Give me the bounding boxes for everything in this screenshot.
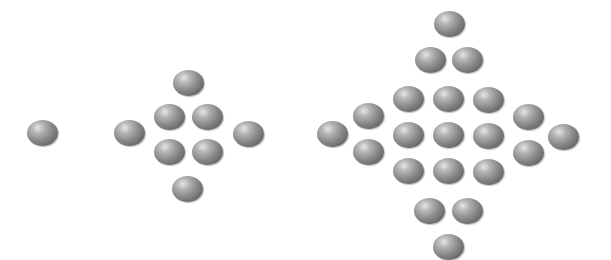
sphere <box>393 122 424 148</box>
sphere <box>513 104 544 130</box>
sphere <box>433 86 464 112</box>
sphere <box>434 11 465 37</box>
sphere <box>433 122 464 148</box>
sphere <box>353 139 384 165</box>
sphere <box>415 47 446 73</box>
sphere <box>433 158 464 184</box>
sphere <box>393 86 424 112</box>
sphere <box>473 159 504 185</box>
sphere <box>548 124 579 150</box>
sphere <box>473 87 504 113</box>
sphere <box>513 140 544 166</box>
sphere <box>317 121 348 147</box>
sphere <box>452 198 483 224</box>
sphere <box>353 103 384 129</box>
sphere <box>473 123 504 149</box>
sphere <box>414 198 445 224</box>
sphere <box>452 47 483 73</box>
sphere <box>433 234 464 260</box>
sphere <box>393 158 424 184</box>
